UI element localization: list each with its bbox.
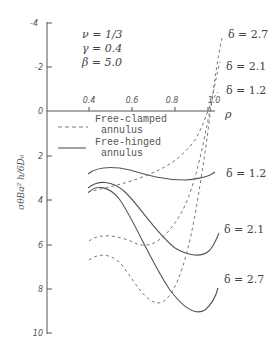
y-tick-label: 6 [38, 241, 43, 250]
label-solid-delta-2.1: δ = 2.1 [224, 223, 264, 236]
label-dashed-delta-1.2: δ = 1.2 [226, 84, 266, 97]
y-tick-label: 0 [38, 107, 43, 116]
x-tick-label: 0.8 [166, 96, 179, 105]
x-tick-label: 0.6 [126, 96, 139, 105]
label-solid-delta-1.2: δ = 1.2 [226, 167, 266, 180]
y-tick-label: -4 [30, 19, 38, 28]
x-tick-label: 0.4 [83, 96, 96, 105]
y-tick-label: 8 [38, 285, 43, 294]
label-dashed-delta-2.1: δ = 2.1 [226, 60, 266, 73]
param-beta: β = 5.0 [81, 56, 122, 69]
y-tick-label: 4 [38, 196, 43, 205]
label-solid-delta-2.7: δ = 2.7 [224, 273, 264, 286]
curve-hinged-delta-2.1 [88, 182, 219, 255]
legend-hinged-line2: annulus [101, 148, 143, 159]
y-tick-label: 10 [33, 329, 43, 338]
y-axis-label: σθBa² h/6D₀ [16, 154, 26, 210]
label-dashed-delta-2.7: δ = 2.7 [228, 28, 268, 41]
param-nu: ν = 1/3 [82, 28, 123, 41]
legend-clamped-line2: annulus [101, 125, 143, 136]
legend-hinged-line1: Free-hinged [95, 137, 161, 148]
y-tick-label: -2 [35, 63, 43, 72]
y-ticks [47, 23, 52, 333]
curve-clamped-delta-2.7 [89, 38, 222, 303]
legend-clamped-line1: Free-clamped [95, 114, 167, 125]
x-axis-label: ρ [224, 108, 232, 121]
chart: -4 -2 0 2 4 6 8 10 0.4 0.6 0.8 1.0 ρ σθB… [0, 0, 276, 351]
curve-hinged-delta-2.7 [88, 188, 218, 312]
y-tick-label: 2 [38, 152, 43, 161]
x-ticks [89, 107, 208, 111]
param-gamma: γ = 0.4 [82, 42, 122, 55]
